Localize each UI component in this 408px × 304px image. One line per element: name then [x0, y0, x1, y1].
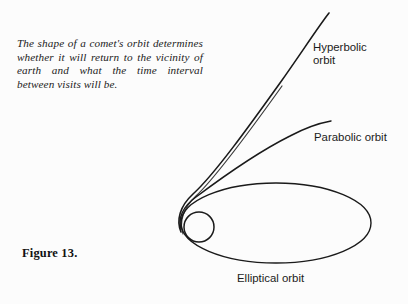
sun-focus-circle: [184, 212, 214, 242]
elliptical-orbit-label: Elliptical orbit: [237, 272, 304, 285]
parabolic-orbit-label: Parabolic orbit: [314, 131, 387, 144]
figure-13-diagram: The shape of a comet's orbit determines …: [0, 0, 408, 304]
figure-caption-text: The shape of a comet's orbit determines …: [17, 37, 203, 91]
figure-number-label: Figure 13.: [22, 246, 77, 261]
elliptical-orbit-path: [181, 183, 371, 263]
hyperbolic-orbit-label: Hyperbolic orbit: [313, 41, 367, 68]
